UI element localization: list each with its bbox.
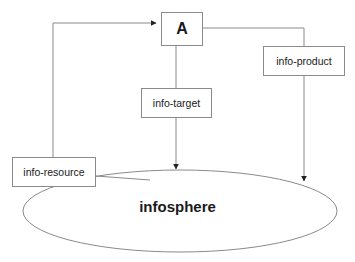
- node-agent[interactable]: A: [161, 12, 203, 46]
- node-info-target[interactable]: info-target: [141, 88, 212, 118]
- edge-agent-to-product: [203, 28, 304, 46]
- node-info-product-label: info-product: [276, 56, 331, 67]
- node-info-resource[interactable]: info-resource: [12, 157, 96, 187]
- node-info-product[interactable]: info-product: [263, 46, 345, 76]
- diagram-canvas: A info-product info-target info-resource…: [0, 0, 355, 262]
- node-info-target-label: info-target: [153, 98, 200, 109]
- node-info-resource-label: info-resource: [23, 167, 84, 178]
- node-agent-label: A: [176, 21, 188, 37]
